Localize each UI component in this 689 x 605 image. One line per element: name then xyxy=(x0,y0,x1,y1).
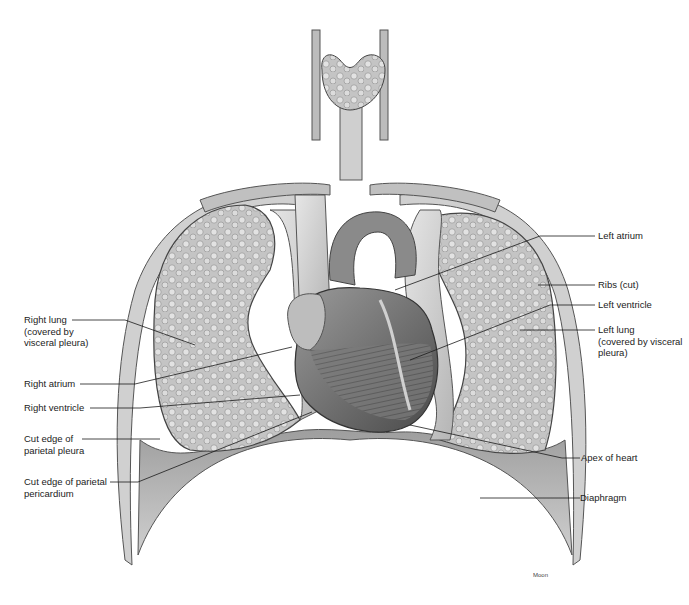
label-left-atrium: Left atrium xyxy=(598,230,643,242)
label-right-ventricle: Right ventricle xyxy=(24,402,84,414)
label-cut-edge-parietal-pleura: Cut edge of parietal pleura xyxy=(24,433,84,456)
label-cut-edge-parietal-pericardium: Cut edge of parietal pericardium xyxy=(24,476,107,499)
label-ribs-cut: Ribs (cut) xyxy=(598,279,639,291)
thoracic-anatomy-illustration xyxy=(0,0,689,605)
neck-structures xyxy=(200,30,500,212)
label-apex-of-heart: Apex of heart xyxy=(581,452,638,464)
label-left-ventricle: Left ventricle xyxy=(598,299,652,311)
aortic-arch xyxy=(329,212,416,285)
artist-credit: Moon xyxy=(533,572,548,578)
right-lung-shape xyxy=(154,205,300,451)
label-left-lung: Left lung (covered by visceral pleura) xyxy=(598,324,682,359)
label-diaphragm: Diaphragm xyxy=(580,492,626,504)
label-right-atrium: Right atrium xyxy=(24,378,75,390)
label-right-lung: Right lung (covered by visceral pleura) xyxy=(24,314,88,349)
